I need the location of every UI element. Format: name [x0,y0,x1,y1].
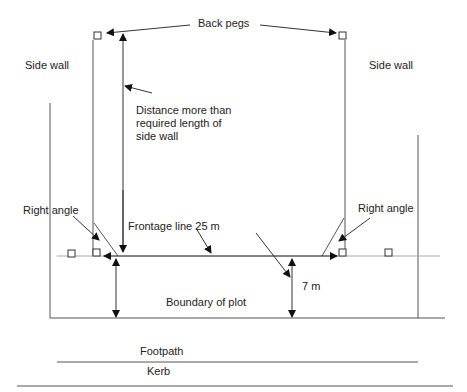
back-peg-arrow-right [260,25,336,33]
back-pegs-label: Back pegs [198,17,249,30]
peg-far-right-icon [385,249,392,256]
kerb-label: Kerb [147,365,170,378]
right-angle-right-label: Right angle [358,202,414,215]
back-peg-left-icon [94,32,101,39]
distance-label-line1: Distance more than [136,104,231,117]
right-angle-left-label: Right angle [23,204,79,217]
peg-right-icon [339,249,346,256]
peg-far-left-icon [68,250,75,257]
side-wall-left-label: Side wall [25,59,69,72]
distance-label-line3: side wall [136,130,178,143]
back-peg-arrow-left [107,25,190,33]
peg-left-icon [93,249,100,256]
footpath-label: Footpath [140,345,183,358]
side-wall-right-label: Side wall [369,59,413,72]
boundary-label: Boundary of plot [166,296,246,309]
distance-label-line2: required length of [136,117,222,130]
back-peg-right-icon [339,32,346,39]
seven-m-label: 7 m [302,280,320,293]
frontage-line-label: Frontage line 25 m [128,220,220,233]
right-angle-right-arrow [339,218,370,241]
distance-label-arrow [125,86,152,93]
right-angle-left-arrow [73,216,99,240]
seven-m-label-arrow [256,233,290,277]
